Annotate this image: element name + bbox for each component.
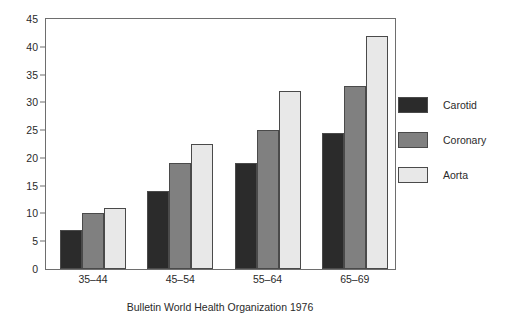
y-tick-label: 35 (26, 69, 38, 80)
legend-label-coronary: Coronary (443, 135, 486, 146)
bar-group (308, 19, 395, 269)
bar-group (133, 19, 220, 269)
y-tick-label: 45 (26, 14, 38, 25)
x-tick-label: 35–44 (78, 274, 107, 285)
x-axis-tick-labels: 35–4445–5455–6465–69 (46, 274, 395, 292)
x-tick-label: 65–69 (340, 274, 369, 285)
bar-coronary-2 (257, 130, 279, 269)
legend-swatch-coronary (398, 132, 428, 148)
y-axis-tick-labels: 051015202530354045 (0, 18, 38, 270)
y-tick-label: 20 (26, 153, 38, 164)
bar-carotid-3 (322, 133, 344, 269)
y-tick-label: 25 (26, 125, 38, 136)
y-tick-label: 0 (32, 264, 38, 275)
y-tick-label: 30 (26, 97, 38, 108)
bar-carotid-2 (235, 163, 257, 269)
bars-layer (46, 19, 395, 269)
bar-coronary-0 (82, 213, 104, 269)
legend-swatch-carotid (398, 97, 428, 113)
y-tick-label: 40 (26, 42, 38, 53)
bar-aorta-1 (191, 144, 213, 269)
legend-item-aorta: Aorta (398, 166, 510, 184)
bar-group (221, 19, 308, 269)
bar-coronary-1 (169, 163, 191, 269)
chart-figure: 051015202530354045 35–4445–5455–6465–69 … (0, 0, 515, 326)
bar-aorta-2 (279, 91, 301, 269)
bar-carotid-1 (147, 191, 169, 269)
bar-group (46, 19, 133, 269)
legend-label-aorta: Aorta (443, 170, 468, 181)
bar-aorta-0 (104, 208, 126, 269)
legend-swatch-aorta (398, 167, 428, 183)
legend-item-coronary: Coronary (398, 131, 510, 149)
y-tick-label: 10 (26, 208, 38, 219)
chart-caption: Bulletin World Health Organization 1976 (0, 302, 440, 313)
bar-aorta-3 (366, 36, 388, 269)
bar-carotid-0 (60, 230, 82, 269)
chart-legend: CarotidCoronaryAorta (398, 96, 510, 201)
y-tick-label: 15 (26, 180, 38, 191)
x-tick-label: 45–54 (166, 274, 195, 285)
bar-coronary-3 (344, 86, 366, 269)
x-tick-label: 55–64 (253, 274, 282, 285)
legend-label-carotid: Carotid (443, 100, 477, 111)
y-tick-label: 5 (32, 236, 38, 247)
legend-item-carotid: Carotid (398, 96, 510, 114)
